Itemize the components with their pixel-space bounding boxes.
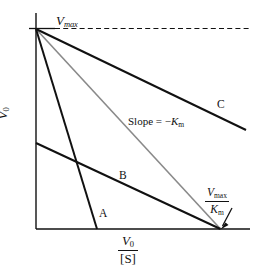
- x-axis-fraction: V0 [S]: [118, 234, 138, 266]
- slope-km-subscript: m: [178, 120, 184, 129]
- curve-label-a: A: [99, 208, 107, 220]
- x-axis-num-subscript: 0: [130, 239, 134, 249]
- vmax-km-fraction-bar: [205, 201, 229, 202]
- vmax-km-num-subscript: max: [214, 191, 227, 200]
- vmax-subscript: max: [64, 19, 78, 29]
- y-axis-label-base: V: [0, 111, 10, 119]
- curve-a-line: [36, 29, 97, 229]
- vmax-km-numerator: Vmax: [205, 186, 229, 200]
- vmax-km-den-subscript: m: [218, 208, 224, 217]
- vmax-km-num-base: V: [207, 186, 214, 198]
- gray-reference-line: [36, 29, 221, 229]
- slope-text: Slope = −: [128, 115, 171, 127]
- vmax-label: Vmax: [56, 14, 78, 28]
- y-axis-label: V0: [0, 107, 10, 119]
- vmax-over-km-label: Vmax Km: [205, 186, 229, 217]
- x-axis-label: V0 [S]: [106, 234, 150, 266]
- eadie-hofstee-figure: Vmax V0 V0 [S] Slope = −Km Vmax Km A B C: [0, 0, 254, 273]
- x-axis-numerator: V0: [118, 234, 138, 249]
- slope-annotation: Slope = −Km: [128, 116, 184, 128]
- vmax-km-den-base: K: [210, 203, 218, 215]
- vmax-base: V: [56, 13, 64, 28]
- vmax-km-denominator: Km: [205, 203, 229, 217]
- y-axis-label-subscript: 0: [1, 107, 11, 111]
- x-axis-num-base: V: [122, 233, 130, 248]
- vmax-km-fraction: Vmax Km: [205, 186, 229, 217]
- x-axis-denominator: [S]: [118, 252, 138, 266]
- curve-b-line: [36, 143, 221, 229]
- curve-label-c: C: [217, 99, 225, 111]
- curve-label-b: B: [119, 170, 127, 182]
